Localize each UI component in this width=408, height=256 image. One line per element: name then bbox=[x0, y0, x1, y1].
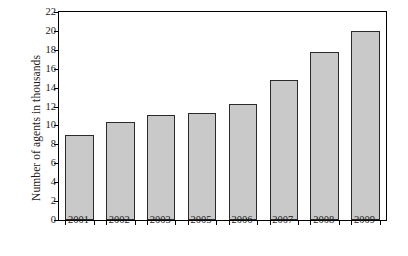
y-tick-label: 12 bbox=[46, 100, 57, 113]
y-tick-label: 6 bbox=[51, 156, 56, 169]
y-tick-label: 8 bbox=[51, 137, 56, 150]
x-tick-mark bbox=[106, 220, 107, 225]
x-tick-mark bbox=[298, 220, 299, 225]
bar bbox=[310, 52, 339, 220]
x-tick-label: 2009 bbox=[354, 213, 375, 226]
y-tick-label: 14 bbox=[46, 81, 57, 94]
bar-chart-figure: Number of agents in thousands 0246810121… bbox=[0, 0, 408, 256]
bar bbox=[229, 104, 258, 220]
x-tick-mark bbox=[147, 220, 148, 225]
bar bbox=[188, 113, 217, 220]
y-tick-label: 2 bbox=[51, 194, 56, 207]
x-tick-mark bbox=[175, 220, 176, 225]
x-tick-mark bbox=[339, 220, 340, 225]
bar bbox=[147, 115, 176, 220]
x-tick-mark bbox=[135, 220, 136, 225]
x-tick-mark bbox=[216, 220, 217, 225]
x-tick-mark bbox=[65, 220, 66, 225]
bar bbox=[65, 135, 94, 220]
x-tick-mark bbox=[257, 220, 258, 225]
x-tick-mark bbox=[351, 220, 352, 225]
y-tick-label: 20 bbox=[46, 24, 57, 37]
y-tick-label: 22 bbox=[46, 5, 57, 18]
y-tick-label: 18 bbox=[46, 43, 57, 56]
y-axis-title: Number of agents in thousands bbox=[24, 0, 48, 256]
bar bbox=[270, 80, 299, 220]
x-tick-label: 2001 bbox=[68, 213, 89, 226]
y-tick-label: 0 bbox=[51, 213, 56, 226]
y-tick-label: 4 bbox=[51, 175, 56, 188]
x-tick-mark bbox=[380, 220, 381, 225]
x-tick-mark bbox=[270, 220, 271, 225]
y-tick-label: 10 bbox=[46, 118, 57, 131]
x-tick-label: 2002 bbox=[109, 213, 130, 226]
bar bbox=[106, 122, 135, 220]
x-tick-mark bbox=[188, 220, 189, 225]
x-tick-mark bbox=[310, 220, 311, 225]
x-tick-mark bbox=[94, 220, 95, 225]
x-tick-mark bbox=[229, 220, 230, 225]
x-tick-label: 2006 bbox=[231, 213, 252, 226]
bar bbox=[351, 31, 380, 220]
x-tick-label: 2007 bbox=[272, 213, 293, 226]
y-tick-label: 16 bbox=[46, 62, 57, 75]
x-tick-label: 2008 bbox=[313, 213, 334, 226]
x-tick-label: 2003 bbox=[150, 213, 171, 226]
plot-area: 0246810121416182022 bbox=[58, 11, 387, 221]
x-tick-label: 2005 bbox=[191, 213, 212, 226]
